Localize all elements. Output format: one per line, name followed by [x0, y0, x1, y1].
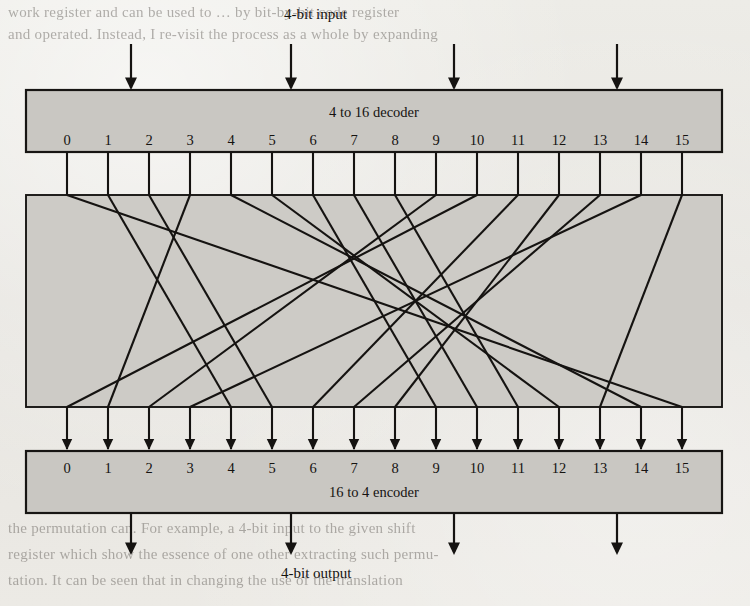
arrow-head-icon [611, 542, 623, 555]
arrow-head-icon [595, 439, 605, 450]
arrow-head-icon [349, 439, 359, 450]
arrow-head-icon [308, 439, 318, 450]
decoder-terminal-8: 8 [391, 132, 398, 148]
arrow-head-icon [144, 439, 154, 450]
arrow-head-icon [431, 439, 441, 450]
arrow-head-icon [448, 542, 460, 555]
arrow-head-icon [267, 439, 277, 450]
decoder-terminal-12: 12 [552, 132, 567, 148]
encoder-terminal-8: 8 [391, 460, 398, 476]
decoder-terminal-13: 13 [593, 132, 608, 148]
encoder-stub-group [62, 407, 687, 450]
decoder-terminal-1: 1 [104, 132, 111, 148]
decoder-terminal-10: 10 [470, 132, 485, 148]
arrow-head-icon [62, 439, 72, 450]
decoder-terminal-6: 6 [309, 132, 316, 148]
decoder-terminal-2: 2 [145, 132, 152, 148]
output-arrow-group [125, 513, 623, 555]
decoder-terminal-9: 9 [432, 132, 439, 148]
encoder-terminal-3: 3 [186, 460, 193, 476]
arrow-head-icon [611, 77, 623, 90]
encoder-terminal-1: 1 [104, 460, 111, 476]
arrow-head-icon [285, 77, 297, 90]
encoder-terminal-11: 11 [511, 460, 525, 476]
arrow-head-icon [285, 542, 297, 555]
decoder-title: 4 to 16 decoder [329, 104, 419, 120]
arrow-head-icon [448, 77, 460, 90]
arrow-head-icon [125, 542, 137, 555]
decoder-terminal-7: 7 [350, 132, 357, 148]
encoder-terminal-9: 9 [432, 460, 439, 476]
arrow-head-icon [636, 439, 646, 450]
encoder-terminal-12: 12 [552, 460, 567, 476]
figure-svg: 4 to 16 decoder 0123456789101112131415 0… [0, 0, 750, 606]
input-arrow-group [125, 44, 623, 90]
encoder-title: 16 to 4 encoder [329, 484, 419, 500]
decoder-stub-group [67, 152, 682, 195]
arrow-head-icon [185, 439, 195, 450]
arrow-head-icon [513, 439, 523, 450]
permutation-figure: 4-bit input 4-bit output 4 to 16 decoder… [0, 0, 750, 606]
encoder-terminal-0: 0 [63, 460, 70, 476]
encoder-terminal-13: 13 [593, 460, 608, 476]
decoder-terminal-5: 5 [268, 132, 275, 148]
arrow-head-icon [226, 439, 236, 450]
encoder-box [26, 451, 722, 513]
decoder-terminal-0: 0 [63, 132, 70, 148]
arrow-head-icon [472, 439, 482, 450]
encoder-terminal-6: 6 [309, 460, 316, 476]
arrow-head-icon [103, 439, 113, 450]
decoder-terminal-15: 15 [675, 132, 690, 148]
arrow-head-icon [390, 439, 400, 450]
encoder-terminal-15: 15 [675, 460, 690, 476]
encoder-terminal-2: 2 [145, 460, 152, 476]
arrow-head-icon [677, 439, 687, 450]
decoder-box [26, 90, 722, 152]
decoder-terminal-4: 4 [227, 132, 235, 148]
encoder-terminal-4: 4 [227, 460, 235, 476]
encoder-terminal-5: 5 [268, 460, 275, 476]
encoder-terminal-14: 14 [634, 460, 649, 476]
arrow-head-icon [125, 77, 137, 90]
decoder-terminal-3: 3 [186, 132, 193, 148]
encoder-terminal-7: 7 [350, 460, 357, 476]
encoder-terminal-10: 10 [470, 460, 485, 476]
decoder-terminal-14: 14 [634, 132, 649, 148]
decoder-terminal-11: 11 [511, 132, 525, 148]
arrow-head-icon [554, 439, 564, 450]
